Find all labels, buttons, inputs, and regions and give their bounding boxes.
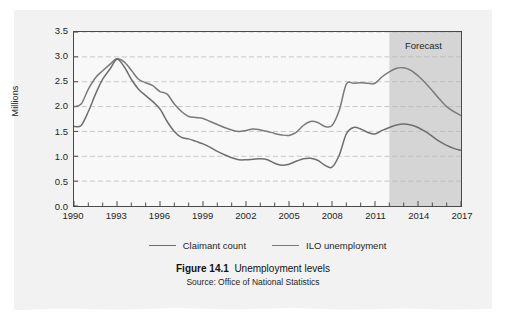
y-tick-label: 0.5 (42, 177, 68, 187)
figure-title: Unemployment levels (234, 263, 330, 274)
figure-screenshot: Millions 0.00.51.01.52.02.53.03.5 Foreca… (0, 0, 506, 323)
x-tick-label: 2005 (279, 211, 300, 221)
chart-legend: Claimant countILO unemployment (73, 238, 462, 252)
x-tick-label: 2017 (451, 211, 472, 221)
caption-title-line: Figure 14.1 Unemployment levels (14, 262, 492, 276)
x-tick-label: 1996 (149, 211, 170, 221)
forecast-shading-group (389, 32, 461, 206)
x-tick-label: 1999 (192, 211, 213, 221)
x-tick-label: 2011 (365, 211, 385, 221)
y-axis-tick-labels: 0.00.51.01.52.02.53.03.5 (40, 31, 68, 207)
x-tick-label: 2002 (235, 211, 256, 221)
figure-number: Figure 14.1 (176, 263, 229, 274)
x-tick-label: 1990 (62, 211, 83, 221)
legend-item: ILO unemployment (272, 240, 386, 251)
plot-svg (74, 32, 461, 206)
figure-source: Source: Office of National Statistics (14, 276, 492, 289)
legend-item: Claimant count (149, 240, 246, 251)
forecast-region-rect (389, 32, 461, 206)
figure-caption: Figure 14.1 Unemployment levels Source: … (14, 262, 492, 288)
plot-area: Forecast (73, 31, 462, 207)
y-axis-title: Millions (10, 86, 20, 117)
x-tick-label: 2014 (408, 211, 429, 221)
x-tick-label: 1993 (106, 211, 127, 221)
y-tick-label: 3.5 (42, 26, 68, 36)
legend-label: Claimant count (183, 240, 246, 251)
legend-label: ILO unemployment (306, 240, 386, 251)
y-tick-label: 1.5 (42, 127, 68, 137)
chart-container: Millions 0.00.51.01.52.02.53.03.5 Foreca… (14, 10, 492, 310)
scanned-page-sheet: Millions 0.00.51.01.52.02.53.03.5 Foreca… (14, 10, 492, 310)
forecast-annotation-label: Forecast (405, 40, 442, 51)
legend-line-swatch (149, 245, 176, 246)
y-tick-label: 2.5 (42, 76, 68, 86)
y-tick-label: 2.0 (42, 101, 68, 111)
x-tick-label: 2008 (322, 211, 343, 221)
x-axis-tick-labels: 1990199319961999200220052008201120142017 (73, 211, 462, 227)
legend-line-swatch (272, 245, 299, 246)
y-tick-label: 1.0 (42, 152, 68, 162)
y-tick-label: 3.0 (42, 51, 68, 61)
